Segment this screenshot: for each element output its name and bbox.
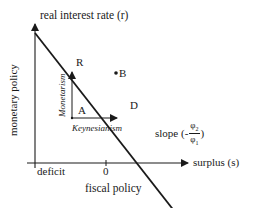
point-d-label: D bbox=[130, 100, 138, 111]
point-a-label: A bbox=[78, 105, 86, 116]
monetarism-label: Monetarism bbox=[58, 74, 67, 118]
slope-prefix: slope (- bbox=[155, 128, 188, 139]
x-axis-label: surplus (s) bbox=[193, 157, 239, 168]
deficit-label: deficit bbox=[37, 166, 65, 177]
slope-numerator: φ2 bbox=[189, 121, 199, 134]
point-r-label: R bbox=[76, 57, 83, 68]
point-b-label: B bbox=[119, 68, 126, 79]
slope-fraction: φ2 φ1 bbox=[189, 121, 199, 146]
x-axis-title: fiscal policy bbox=[85, 183, 142, 195]
point-b-dot bbox=[114, 71, 118, 75]
y-axis-title: monetary policy bbox=[8, 64, 19, 136]
keynesianism-label: Keynesianism bbox=[72, 124, 122, 133]
y-axis-label: real interest rate (r) bbox=[40, 10, 128, 22]
slope-suffix: ) bbox=[201, 128, 205, 139]
slope-label: slope (- φ2 φ1 ) bbox=[155, 121, 204, 146]
point-a-dot bbox=[71, 117, 73, 119]
slope-denominator: φ1 bbox=[190, 134, 198, 146]
zero-label: 0 bbox=[103, 166, 109, 177]
